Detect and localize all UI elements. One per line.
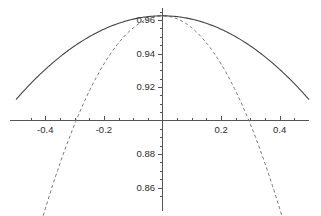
y-tick-label: 0.92 xyxy=(137,81,156,92)
x-tick-label: -0.2 xyxy=(96,124,112,135)
y-tick-label: 0.88 xyxy=(137,148,156,159)
y-tick-label: 0.86 xyxy=(137,182,156,193)
x-tick-label: -0.4 xyxy=(37,124,53,135)
y-tick-label: 0.94 xyxy=(137,48,156,59)
x-tick-label: 0.4 xyxy=(273,124,286,135)
chart-background xyxy=(0,0,321,216)
plot-canvas: -0.4-0.20.20.4 0.860.880.920.940.96 xyxy=(0,0,321,216)
x-tick-label: 0.2 xyxy=(214,124,227,135)
chart-figure: -0.4-0.20.20.4 0.860.880.920.940.96 xyxy=(0,0,321,216)
